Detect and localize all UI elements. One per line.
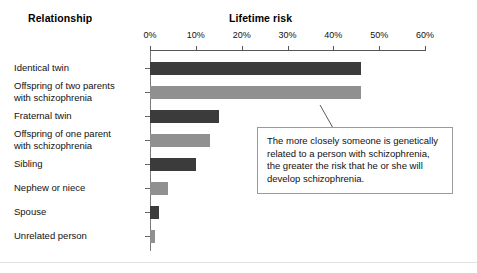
- callout-note: The more closely someone is genetically …: [257, 127, 453, 194]
- row-label: Unrelated person: [14, 230, 139, 242]
- row-label: Fraternal twin: [14, 110, 139, 122]
- x-tick-mark: [379, 46, 380, 51]
- row-label: Offspring of two parentswith schizophren…: [14, 80, 139, 103]
- bar: [150, 110, 219, 123]
- row-label: Spouse: [14, 206, 139, 218]
- chart-row: Unrelated person: [0, 226, 477, 250]
- x-tick-label: 40%: [324, 30, 342, 40]
- chart-figure: Relationship Lifetime risk 0%10%20%30%40…: [0, 0, 477, 273]
- chart-row: Spouse: [0, 202, 477, 226]
- category-axis-title: Relationship: [28, 12, 92, 24]
- bar: [150, 158, 196, 171]
- x-tick-label: 20%: [233, 30, 251, 40]
- x-tick-mark: [242, 46, 243, 51]
- figure-bottom-rule: [0, 262, 477, 263]
- x-tick-mark: [333, 46, 334, 51]
- bar: [150, 206, 159, 219]
- callout-leader-line: [318, 104, 342, 129]
- chart-row: Identical twin: [0, 58, 477, 82]
- bar: [150, 230, 155, 243]
- bar: [150, 62, 361, 75]
- chart-row: Offspring of two parentswith schizophren…: [0, 82, 477, 106]
- bar: [150, 134, 210, 147]
- x-tick-label: 0%: [143, 30, 156, 40]
- value-axis-title: Lifetime risk: [229, 12, 292, 24]
- bar: [150, 182, 168, 195]
- row-label: Identical twin: [14, 62, 139, 74]
- x-tick-mark: [150, 46, 151, 51]
- row-label: Sibling: [14, 158, 139, 170]
- x-tick-label: 30%: [278, 30, 296, 40]
- x-tick-mark: [196, 46, 197, 51]
- x-tick-label: 50%: [370, 30, 388, 40]
- row-label: Offspring of one parentwith schizophreni…: [14, 128, 139, 151]
- x-tick-label: 10%: [187, 30, 205, 40]
- row-label: Nephew or niece: [14, 182, 139, 194]
- bar: [150, 86, 361, 99]
- x-tick-mark: [425, 46, 426, 51]
- x-tick-mark: [288, 46, 289, 51]
- x-tick-label: 60%: [416, 30, 434, 40]
